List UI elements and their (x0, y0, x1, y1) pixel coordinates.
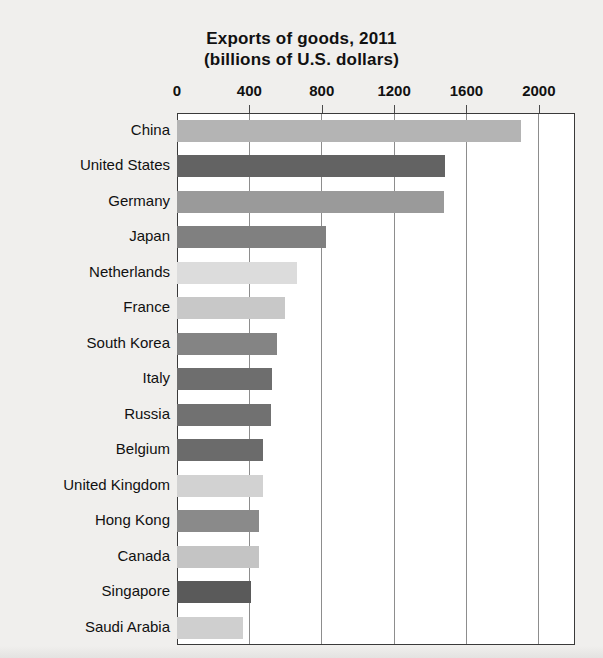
x-tick-mark-1200 (394, 105, 395, 113)
bar-japan (177, 226, 326, 248)
category-label-saudi-arabia: Saudi Arabia (0, 616, 170, 638)
category-label-south-korea: South Korea (0, 332, 170, 354)
x-tick-label-2000: 2000 (522, 82, 555, 99)
page-shadow (0, 646, 603, 658)
bar-belgium (177, 439, 263, 461)
category-label-russia: Russia (0, 403, 170, 425)
bar-singapore (177, 581, 251, 603)
bar-row: Belgium (0, 432, 603, 467)
bar-row: Netherlands (0, 255, 603, 290)
bar-germany (177, 191, 444, 213)
category-label-japan: Japan (0, 225, 170, 247)
bar-italy (177, 368, 272, 390)
x-tick-label-400: 400 (237, 82, 262, 99)
bar-south-korea (177, 333, 277, 355)
bar-row: South Korea (0, 326, 603, 361)
bar-row: Hong Kong (0, 503, 603, 538)
x-axis-tick-labels: 0400800120016002000 (0, 82, 603, 102)
category-label-united-kingdom: United Kingdom (0, 474, 170, 496)
chart-title-line-2: (billions of U.S. dollars) (0, 49, 603, 70)
bar-united-kingdom (177, 475, 263, 497)
bar-netherlands (177, 262, 297, 284)
bar-united-states (177, 155, 445, 177)
category-label-singapore: Singapore (0, 580, 170, 602)
bar-row: Canada (0, 539, 603, 574)
bar-canada (177, 546, 259, 568)
category-label-belgium: Belgium (0, 438, 170, 460)
category-label-netherlands: Netherlands (0, 261, 170, 283)
bar-row: Singapore (0, 574, 603, 609)
bar-row: United Kingdom (0, 468, 603, 503)
x-tick-label-0: 0 (173, 82, 181, 99)
bar-china (177, 120, 521, 142)
bar-row: France (0, 290, 603, 325)
chart-title-line-1: Exports of goods, 2011 (0, 28, 603, 49)
category-label-canada: Canada (0, 545, 170, 567)
chart-title: Exports of goods, 2011 (billions of U.S.… (0, 28, 603, 70)
x-tick-mark-800 (322, 105, 323, 113)
category-label-china: China (0, 119, 170, 141)
bar-russia (177, 404, 271, 426)
x-tick-label-1200: 1200 (377, 82, 410, 99)
bar-saudi-arabia (177, 617, 243, 639)
category-label-italy: Italy (0, 367, 170, 389)
bar-row: Italy (0, 361, 603, 396)
x-tick-label-1600: 1600 (450, 82, 483, 99)
x-tick-mark-1600 (466, 105, 467, 113)
bar-rows: ChinaUnited StatesGermanyJapanNetherland… (0, 113, 603, 645)
category-label-hong-kong: Hong Kong (0, 509, 170, 531)
x-tick-label-800: 800 (309, 82, 334, 99)
bar-row: Saudi Arabia (0, 610, 603, 645)
bar-row: Germany (0, 184, 603, 219)
category-label-germany: Germany (0, 190, 170, 212)
bar-row: United States (0, 148, 603, 183)
x-tick-mark-400 (249, 105, 250, 113)
x-tick-mark-2000 (539, 105, 540, 113)
bar-row: Russia (0, 397, 603, 432)
bar-chart: Exports of goods, 2011 (billions of U.S.… (0, 0, 603, 658)
category-label-united-states: United States (0, 154, 170, 176)
bar-hong-kong (177, 510, 259, 532)
bar-france (177, 297, 285, 319)
bar-row: Japan (0, 219, 603, 254)
category-label-france: France (0, 296, 170, 318)
bar-row: China (0, 113, 603, 148)
